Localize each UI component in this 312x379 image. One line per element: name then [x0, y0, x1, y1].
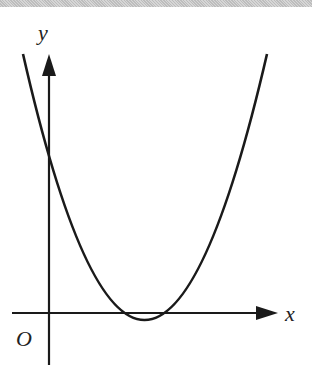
y-axis-label: y — [36, 20, 48, 45]
graph-canvas: y x O — [0, 0, 312, 379]
x-axis-label: x — [284, 301, 295, 326]
y-axis-arrowhead-icon — [42, 54, 56, 76]
parabola-curve — [23, 54, 267, 320]
x-axis-arrowhead-icon — [256, 306, 278, 320]
origin-label: O — [16, 326, 32, 351]
